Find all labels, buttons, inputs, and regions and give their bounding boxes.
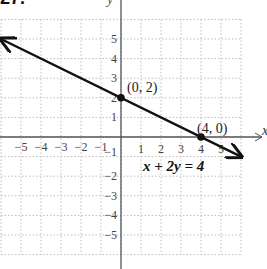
y-tick-label: −3 [104,189,117,203]
y-tick-label: −4 [104,208,117,222]
data-points: (0, 2)(4, 0) [117,80,227,141]
y-tick-label: −2 [104,169,117,183]
x-tick-label: 4 [198,142,204,156]
x-tick-label: −3 [55,140,68,154]
equation-label: x + 2y = 4 [142,158,205,174]
annotations: x + 2y = 4 [142,158,205,174]
x-axis-label: x [261,123,267,138]
y-tick-label: 3 [111,71,117,85]
y-tick-label: −5 [104,228,117,242]
x-tick-label: 3 [178,142,184,156]
y-axis-label: y [105,0,114,7]
point-label: (0, 2) [127,80,158,96]
y-tick-label: 1 [111,110,117,124]
x-tick-label: −2 [75,140,88,154]
x-tick-label: −5 [15,140,28,154]
x-tick-label: 1 [138,142,144,156]
y-tick-label: 5 [111,32,117,46]
x-tick-label: 2 [158,142,164,156]
y-tick-label: 4 [111,52,117,66]
y-tick-label: −1 [104,145,117,159]
x-tick-label: −4 [35,140,48,154]
point-label: (4, 0) [197,121,228,137]
point-marker [117,94,125,102]
coordinate-plane: xy −5−4−3−2−112345−5−4−3−2−112345 (0, 2)… [0,0,267,269]
